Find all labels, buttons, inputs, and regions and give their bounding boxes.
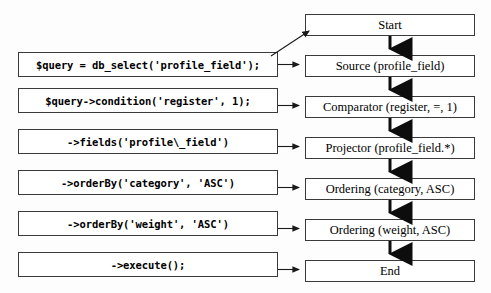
stage-node-source[interactable]: Source (profile_field) (305, 55, 475, 77)
arrow-code-to-projector (278, 141, 305, 152)
stage-node-comparator[interactable]: Comparator (register, =, 1) (305, 96, 475, 118)
stage-node-label: Ordering (weight, ASC) (330, 223, 450, 238)
stage-node-label: End (380, 264, 400, 279)
stage-node-ordering-weight[interactable]: Ordering (weight, ASC) (305, 219, 475, 241)
stage-node-label: Comparator (register, =, 1) (323, 100, 457, 115)
arrow-comparator-to-projector (378, 118, 402, 139)
arrow-projector-to-ordering-category (378, 159, 402, 180)
arrow-code-to-comparator (278, 100, 305, 111)
stage-node-label: Source (profile_field) (336, 59, 445, 74)
stage-node-label: Projector (profile_field.*) (325, 141, 454, 156)
arrow-ordering-category-to-ordering-weight (378, 200, 402, 221)
stage-node-projector[interactable]: Projector (profile_field.*) (305, 137, 475, 159)
stage-node-label: Ordering (category, ASC) (326, 182, 455, 197)
stage-node-end[interactable]: End (305, 260, 475, 282)
stage-node-start[interactable]: Start (305, 14, 475, 36)
arrow-ordering-weight-to-end (378, 241, 402, 262)
arrow-db-select-to-start (270, 26, 316, 58)
arrow-code-to-source (278, 59, 305, 70)
code-node-label: ->orderBy('category', 'ASC') (61, 177, 235, 189)
code-node-orderby-category[interactable]: ->orderBy('category', 'ASC') (18, 170, 278, 195)
code-node-fields[interactable]: ->fields('profile\_field') (18, 129, 278, 154)
stage-node-ordering-category[interactable]: Ordering (category, ASC) (305, 178, 475, 200)
code-node-label: ->fields('profile\_field') (67, 136, 229, 148)
arrow-source-to-comparator (378, 77, 402, 98)
arrow-code-to-ordering-category (278, 182, 305, 193)
code-node-condition[interactable]: $query->condition('register', 1); (18, 88, 278, 113)
diagram-canvas: Start Source (profile_field) Comparator … (0, 0, 491, 293)
code-node-label: $query = db_select('profile_field'); (36, 59, 260, 71)
code-node-db-select[interactable]: $query = db_select('profile_field'); (18, 52, 278, 77)
code-node-orderby-weight[interactable]: ->orderBy('weight', 'ASC') (18, 211, 278, 236)
code-node-execute[interactable]: ->execute(); (18, 252, 278, 277)
code-node-label: $query->condition('register', 1); (45, 95, 250, 107)
code-node-label: ->orderBy('weight', 'ASC') (67, 218, 229, 230)
arrow-code-to-ordering-weight (278, 223, 305, 234)
stage-node-label: Start (378, 18, 402, 33)
arrow-code-to-end (278, 264, 305, 275)
code-node-label: ->execute(); (111, 259, 186, 271)
arrow-start-to-source (378, 36, 402, 57)
